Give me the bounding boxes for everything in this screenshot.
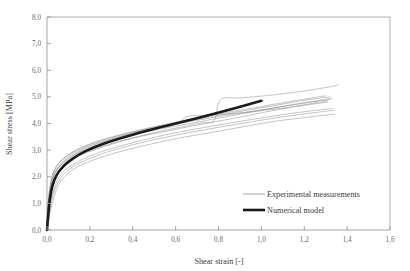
y-tick-label: 0,0: [32, 227, 41, 235]
numerical-model-curve: [47, 101, 261, 230]
x-tick-label: 1,2: [300, 236, 309, 244]
chart-container: 0,01,02,03,04,05,06,07,08,00,00,20,40,60…: [0, 0, 410, 271]
y-tick-label: 8,0: [32, 14, 41, 22]
x-tick-label: 0,4: [128, 236, 137, 244]
tick-labels-group: 0,01,02,03,04,05,06,07,08,00,00,20,40,60…: [32, 14, 395, 244]
x-tick-label: 0,2: [85, 236, 94, 244]
y-tick-label: 7,0: [32, 40, 41, 48]
chart-plot: 0,01,02,03,04,05,06,07,08,00,00,20,40,60…: [0, 0, 410, 271]
x-tick-label: 0,8: [214, 236, 223, 244]
legend-label: Numerical model: [267, 206, 325, 215]
x-tick-label: 0,0: [43, 236, 52, 244]
y-tick-label: 3,0: [32, 147, 41, 155]
y-tick-label: 5,0: [32, 93, 41, 101]
legend-label: Experimental measurements: [267, 190, 360, 199]
y-axis-title: Shear stress [MPa]: [5, 93, 14, 155]
x-axis-title: Shear strain [-]: [194, 257, 243, 266]
y-tick-label: 4,0: [32, 120, 41, 128]
x-tick-label: 0,6: [171, 236, 180, 244]
x-tick-label: 1,4: [343, 236, 352, 244]
y-tick-label: 2,0: [32, 173, 41, 181]
x-tick-label: 1,6: [386, 236, 395, 244]
y-tick-label: 6,0: [32, 67, 41, 75]
x-tick-label: 1,0: [257, 236, 266, 244]
chart-legend: Experimental measurementsNumerical model: [243, 190, 360, 215]
y-tick-label: 1,0: [32, 200, 41, 208]
